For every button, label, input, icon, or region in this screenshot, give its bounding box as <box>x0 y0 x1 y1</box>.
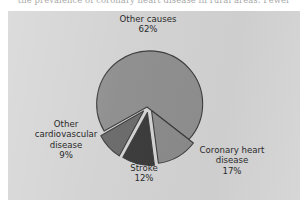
pie-label-coronary-heart-disease: Coronary heart disease 17% <box>178 145 286 176</box>
pie-label-stroke-value: 12% <box>108 173 180 183</box>
pie-label-other-cardiovascular-disease: Other cardiovascular disease 9% <box>22 119 110 161</box>
pie-label-other-causes-line-1: Other causes <box>88 14 208 24</box>
pie-label-stroke: Stroke 12% <box>108 163 180 184</box>
pie-label-coronary-line-1: Coronary heart <box>178 145 286 155</box>
pie-label-othercvd-line-2: cardiovascular <box>22 129 110 139</box>
pie-label-othercvd-line-1: Other <box>22 119 110 129</box>
pie-label-other-causes: Other causes 62% <box>88 14 208 35</box>
pie-label-othercvd-line-3: disease <box>22 140 110 150</box>
pie-label-coronary-line-2: disease <box>178 155 286 165</box>
caption-text-remnant: the prevalence of coronary heart disease… <box>0 0 308 9</box>
pie-label-stroke-line-1: Stroke <box>108 163 180 173</box>
caption-remnant-line: the prevalence of coronary heart disease… <box>0 0 308 5</box>
pie-label-coronary-value: 17% <box>178 166 286 176</box>
pie-label-other-causes-value: 62% <box>88 24 208 34</box>
pie-label-othercvd-value: 9% <box>22 150 110 160</box>
